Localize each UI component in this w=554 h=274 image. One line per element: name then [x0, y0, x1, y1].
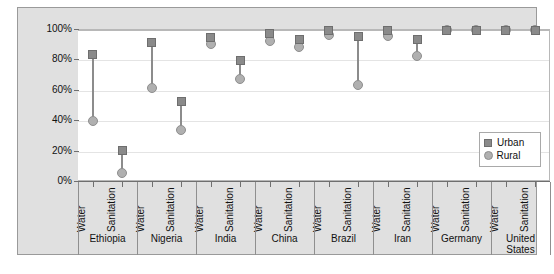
x-axis-measure-label: Sanitation	[106, 188, 117, 232]
country-label-line: Brazil	[314, 234, 373, 245]
urban-data-point	[265, 29, 274, 38]
y-axis-tick-mark	[74, 90, 79, 91]
urban-data-point	[118, 146, 127, 155]
x-axis-measure-label: Sanitation	[165, 188, 176, 232]
urban-rural-connector	[151, 42, 153, 88]
x-axis-tick-mark	[152, 182, 153, 187]
x-axis-country-label: China	[255, 234, 314, 255]
legend-item-rural: Rural	[484, 149, 536, 162]
x-axis-country-label: UnitedStates	[491, 234, 550, 255]
x-axis-category-band: WaterSanitationWaterSanitationWaterSanit…	[78, 182, 550, 255]
urban-rural-connector	[357, 36, 359, 85]
y-axis-labels: 0%20%40%60%80%100%	[26, 29, 72, 181]
country-label-line: Ethiopia	[78, 234, 137, 245]
gridline	[78, 121, 549, 122]
legend-label-rural: Rural	[497, 150, 521, 161]
y-axis-tick-label: 80%	[32, 54, 72, 64]
country-label-line: Germany	[432, 234, 491, 245]
x-axis-tick-mark	[535, 182, 536, 187]
urban-data-point	[413, 35, 422, 44]
urban-rural-connector	[92, 54, 94, 121]
urban-data-point	[88, 50, 97, 59]
urban-data-point	[531, 26, 540, 35]
legend-label-urban: Urban	[497, 137, 524, 148]
x-axis-tick-mark	[388, 182, 389, 187]
x-axis-tick-mark	[329, 182, 330, 187]
chart-screenshot: 0%20%40%60%80%100% WaterSanitationWaterS…	[0, 0, 554, 274]
urban-square-icon	[484, 139, 492, 147]
x-axis-tick-mark	[476, 182, 477, 187]
urban-data-point	[147, 38, 156, 47]
country-label-line: India	[196, 234, 255, 245]
x-axis-tick-mark	[506, 182, 507, 187]
rural-data-point	[235, 74, 245, 84]
x-axis-country-label: Ethiopia	[78, 234, 137, 255]
rural-data-point	[117, 168, 127, 178]
y-axis-tick-mark	[74, 151, 79, 152]
x-axis-measure-label: Sanitation	[460, 188, 471, 232]
urban-data-point	[354, 32, 363, 41]
x-axis-measure-label: Sanitation	[519, 188, 530, 232]
x-axis-measure-label: Sanitation	[283, 188, 294, 232]
rural-circle-icon	[484, 151, 493, 160]
urban-data-point	[501, 26, 510, 35]
gridline	[78, 60, 549, 61]
legend-item-urban: Urban	[484, 136, 536, 149]
x-axis-country-label: Germany	[432, 234, 491, 255]
urban-data-point	[383, 26, 392, 35]
y-axis-tick-mark	[74, 120, 79, 121]
country-separator	[550, 182, 551, 255]
chart-frame: 0%20%40%60%80%100% WaterSanitationWaterS…	[17, 7, 537, 255]
y-axis-tick-label: 60%	[32, 85, 72, 95]
urban-data-point	[324, 26, 333, 35]
x-axis-tick-mark	[211, 182, 212, 187]
rural-data-point	[88, 116, 98, 126]
rural-data-point	[412, 51, 422, 61]
urban-data-point	[295, 35, 304, 44]
x-axis-tick-mark	[358, 182, 359, 187]
rural-data-point	[147, 83, 157, 93]
country-label-line: States	[491, 245, 550, 256]
y-axis-tick-label: 0%	[32, 176, 72, 186]
urban-data-point	[236, 56, 245, 65]
y-axis-tick-mark	[74, 29, 79, 30]
x-axis-country-label: Nigeria	[137, 234, 196, 255]
y-axis-tick-label: 100%	[32, 24, 72, 34]
x-axis-measure-label: Sanitation	[401, 188, 412, 232]
x-axis-tick-mark	[93, 182, 94, 187]
y-axis-tick-label: 40%	[32, 115, 72, 125]
chart-legend: Urban Rural	[479, 132, 541, 167]
urban-data-point	[472, 26, 481, 35]
x-axis-country-label: Brazil	[314, 234, 373, 255]
x-axis-tick-mark	[240, 182, 241, 187]
country-label-line: United	[491, 234, 550, 245]
x-axis-tick-mark	[447, 182, 448, 187]
x-axis-country-label: India	[196, 234, 255, 255]
rural-data-point	[353, 80, 363, 90]
urban-data-point	[442, 26, 451, 35]
y-axis-tick-mark	[74, 59, 79, 60]
country-label-line: Nigeria	[137, 234, 196, 245]
country-label-line: Iran	[373, 234, 432, 245]
y-axis-tick-label: 20%	[32, 146, 72, 156]
country-label-line: China	[255, 234, 314, 245]
x-axis-country-label: Iran	[373, 234, 432, 255]
x-axis-measure-label: Sanitation	[224, 188, 235, 232]
x-axis-tick-mark	[299, 182, 300, 187]
x-axis-tick-mark	[270, 182, 271, 187]
x-axis-tick-mark	[122, 182, 123, 187]
urban-data-point	[177, 97, 186, 106]
rural-data-point	[176, 125, 186, 135]
urban-data-point	[206, 33, 215, 42]
x-axis-measure-label: Sanitation	[342, 188, 353, 232]
y-axis-tick-mark	[74, 181, 79, 182]
x-axis-tick-mark	[181, 182, 182, 187]
x-axis-tick-mark	[417, 182, 418, 187]
